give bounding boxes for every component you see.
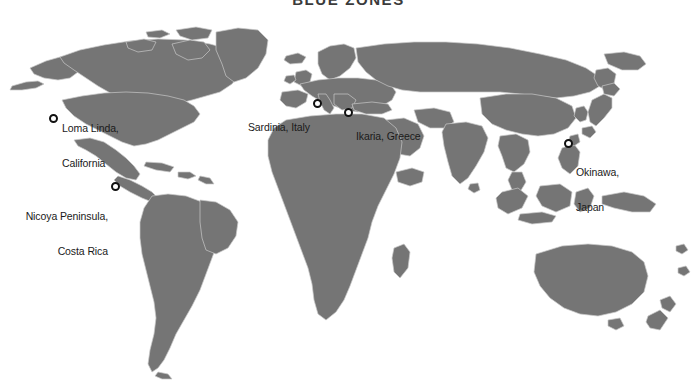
marker-label-loma-linda-line1: Loma Linda,	[62, 123, 119, 135]
marker-label-sardinia-line1: Sardinia, Italy	[240, 122, 310, 134]
marker-label-okinawa-line2: Japan	[576, 202, 619, 214]
marker-ikaria[interactable]	[344, 108, 353, 117]
marker-label-loma-linda-line2: California	[62, 158, 119, 170]
marker-okinawa[interactable]	[564, 139, 573, 148]
marker-label-sardinia: Sardinia, Italy	[240, 99, 310, 157]
blue-zones-map-figure: BLUE ZONES	[0, 0, 697, 388]
marker-sardinia[interactable]	[313, 99, 322, 108]
marker-label-nicoya-peninsula: Nicoya Peninsula, Costa Rica	[16, 188, 108, 280]
marker-label-ikaria: Ikaria, Greece	[356, 108, 421, 166]
marker-label-ikaria-line1: Ikaria, Greece	[356, 131, 421, 143]
marker-nicoya-peninsula[interactable]	[111, 182, 120, 191]
marker-label-loma-linda: Loma Linda, California	[62, 100, 119, 192]
marker-label-okinawa: Okinawa, Japan	[576, 144, 619, 236]
marker-label-nicoya-line1: Nicoya Peninsula,	[16, 211, 108, 223]
marker-loma-linda[interactable]	[49, 114, 58, 123]
marker-label-okinawa-line1: Okinawa,	[576, 167, 619, 179]
marker-label-nicoya-line2: Costa Rica	[16, 246, 108, 258]
page-title: BLUE ZONES	[0, 0, 697, 8]
